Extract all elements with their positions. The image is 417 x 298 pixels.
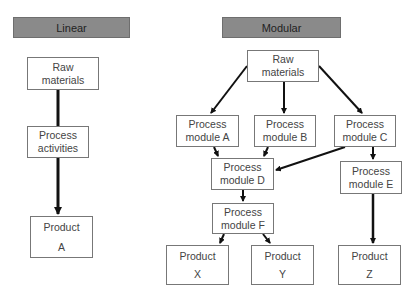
modular-raw-materials-node: Raw materials — [247, 50, 319, 82]
node-label: module B — [263, 131, 307, 144]
node-label: Process — [39, 129, 77, 142]
node-label: Y — [279, 268, 286, 281]
process-module-d-node: Process module D — [211, 158, 274, 190]
node-label: A — [58, 241, 65, 254]
process-module-c-node: Process module C — [334, 115, 396, 147]
node-label: Product — [179, 250, 215, 263]
linear-header: Linear — [13, 17, 130, 38]
node-label: materials — [42, 74, 85, 87]
node-label: Process — [266, 118, 304, 131]
node-label: module D — [220, 174, 265, 187]
node-label: module F — [221, 219, 265, 232]
node-label: Z — [366, 268, 372, 281]
product-y-node: Product Y — [251, 245, 314, 285]
linear-raw-materials-node: Raw materials — [27, 57, 99, 90]
process-module-e-node: Process module E — [340, 161, 402, 194]
node-label: Process — [346, 118, 384, 131]
node-label: module A — [186, 131, 230, 144]
product-z-node: Product Z — [338, 245, 401, 285]
modular-header: Modular — [222, 17, 341, 38]
modular-header-label: Modular — [262, 22, 302, 34]
node-label: module E — [349, 178, 393, 191]
product-x-node: Product X — [166, 245, 229, 285]
node-label: Process — [224, 206, 262, 219]
linear-header-label: Linear — [56, 22, 87, 34]
node-label: Product — [264, 250, 300, 263]
linear-product-a-node: Product A — [30, 216, 93, 258]
node-label: Product — [351, 250, 387, 263]
node-label: Raw — [52, 61, 73, 74]
process-module-a-node: Process module A — [176, 115, 239, 147]
process-module-b-node: Process module B — [254, 115, 316, 147]
linear-process-activities-node: Process activities — [27, 126, 89, 158]
node-label: Process — [189, 118, 227, 131]
node-label: Raw — [272, 53, 293, 66]
process-module-f-node: Process module F — [212, 203, 274, 234]
node-label: module C — [343, 131, 388, 144]
node-label: Process — [224, 161, 262, 174]
node-label: X — [194, 268, 201, 281]
node-label: materials — [262, 66, 305, 79]
node-label: activities — [38, 142, 78, 155]
node-label: Process — [352, 165, 390, 178]
node-label: Product — [43, 221, 79, 234]
